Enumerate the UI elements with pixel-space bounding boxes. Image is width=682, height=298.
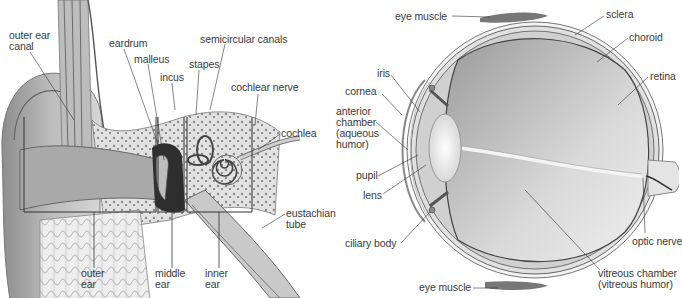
label-eustachian-tube: eustachian tube <box>286 208 336 230</box>
label-inner-ear: inner ear <box>205 268 228 290</box>
label-sclera: sclera <box>606 9 633 20</box>
label-eye-muscle-bottom: eye muscle <box>419 282 471 293</box>
label-eardrum: eardrum <box>109 38 147 49</box>
label-vitreous-chamber: vitreous chamber (vitreous humor) <box>598 268 677 290</box>
label-optic-nerve: optic nerve <box>632 236 682 247</box>
label-retina: retina <box>650 71 676 82</box>
label-ciliary-body: ciliary body <box>345 238 396 249</box>
label-cochlea: cochlea <box>281 128 317 139</box>
label-pupil: pupil <box>356 170 378 181</box>
label-outer-ear-canal: outer ear canal <box>9 30 50 52</box>
label-cochlear-nerve: cochlear nerve <box>231 82 298 93</box>
label-iris: iris <box>377 68 390 79</box>
label-stapes: stapes <box>189 59 219 70</box>
label-choroid: choroid <box>629 32 663 43</box>
label-middle-ear: middle ear <box>155 268 185 290</box>
label-anterior-chamber: anterior chamber (aqueous humor) <box>336 106 379 150</box>
label-malleus: malleus <box>134 54 169 65</box>
label-lens: lens <box>363 190 382 201</box>
label-outer-ear: outer ear <box>81 268 104 290</box>
label-cornea: cornea <box>345 86 377 97</box>
label-eye-muscle-top: eye muscle <box>395 11 447 22</box>
label-incus: incus <box>160 72 184 83</box>
label-semicircular-canals: semicircular canals <box>200 34 287 45</box>
